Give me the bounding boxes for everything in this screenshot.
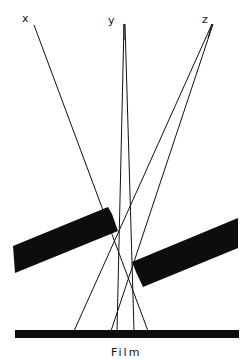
film-bar (15, 330, 239, 338)
ray-x-1 (34, 25, 148, 331)
radiography-projection-diagram: x y z Film (0, 0, 249, 360)
source-x-label: x (22, 12, 29, 25)
rays-from-y (117, 24, 134, 331)
right-object-block (132, 218, 238, 287)
rays-from-x (34, 25, 148, 331)
source-y-label: y (108, 14, 115, 27)
ray-y-1 (117, 24, 124, 331)
film-label: Film (111, 346, 141, 359)
left-object-block (13, 207, 118, 273)
source-z-label: z (202, 13, 208, 26)
